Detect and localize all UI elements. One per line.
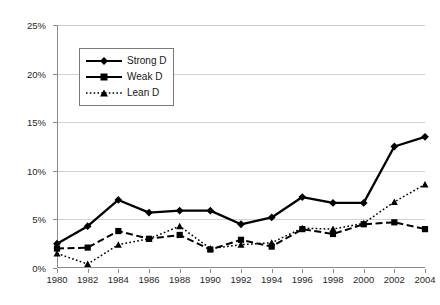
- data-point-triangle: [422, 181, 429, 187]
- legend-item-lean-d[interactable]: Lean D: [85, 85, 166, 101]
- data-point-triangle: [391, 198, 398, 204]
- data-point-triangle: [330, 226, 337, 232]
- data-point-diamond: [329, 199, 337, 207]
- data-point-diamond: [237, 220, 245, 228]
- data-point-diamond: [206, 207, 214, 215]
- data-point-diamond: [145, 209, 153, 217]
- data-point-square: [177, 232, 183, 238]
- triangle-marker-dotted-line-icon: [85, 87, 123, 99]
- data-point-diamond: [421, 133, 429, 141]
- data-point-triangle: [115, 241, 122, 247]
- legend-label-lean-d: Lean D: [127, 88, 159, 98]
- data-point-diamond: [176, 207, 184, 215]
- data-point-square: [422, 226, 428, 232]
- legend-item-strong-d[interactable]: Strong D: [85, 53, 166, 69]
- diamond-marker-solid-line-icon: [85, 55, 123, 67]
- data-point-square: [85, 244, 91, 250]
- data-point-triangle: [268, 239, 275, 245]
- data-point-square: [391, 219, 397, 225]
- legend: Strong D Weak D Lean D: [79, 48, 174, 106]
- data-point-triangle: [84, 261, 91, 267]
- data-point-triangle: [176, 223, 183, 229]
- data-point-square: [115, 228, 121, 234]
- square-marker-dashed-line-icon: [85, 71, 123, 83]
- legend-item-weak-d[interactable]: Weak D: [85, 69, 166, 85]
- legend-label-weak-d: Weak D: [127, 72, 162, 82]
- legend-label-strong-d: Strong D: [127, 56, 166, 66]
- series-strong-d: [53, 133, 429, 248]
